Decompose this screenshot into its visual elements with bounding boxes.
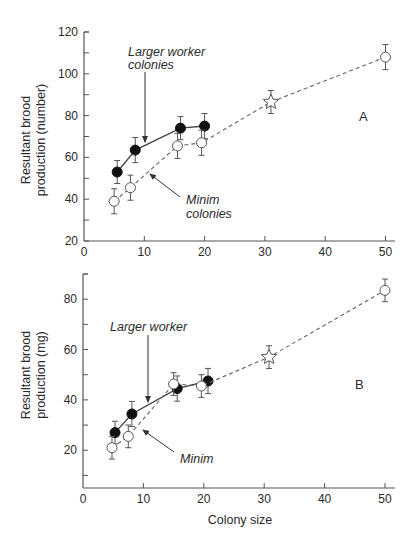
annotation-minim-a-line1: Minim: [186, 193, 219, 207]
filled-circle-marker: [175, 123, 185, 133]
y-tick-label: 20: [64, 443, 78, 457]
y-tick-label: 60: [64, 343, 78, 357]
arrow-minim-a: [150, 174, 180, 197]
filled-circle-marker: [200, 121, 210, 131]
x-tick-label: 20: [197, 492, 211, 506]
y-tick-label: 80: [64, 292, 78, 306]
x-tick-label: 10: [137, 492, 151, 506]
annotation-larger-worker-b: Larger worker: [110, 320, 188, 334]
chart-panel-a: 2040608010012001020304050: [58, 25, 395, 259]
chart-panel-b: 2040608001020304050: [64, 274, 395, 506]
y-tick-label: 120: [58, 25, 78, 39]
filled-circle-marker: [112, 167, 122, 177]
open-circle-marker: [123, 431, 133, 441]
y-axis-title-a-line2: production (number): [34, 84, 48, 197]
filled-circle-marker: [130, 145, 140, 155]
x-tick-label: 0: [80, 492, 87, 506]
series-line: [112, 290, 385, 447]
y-tick-label: 20: [65, 234, 79, 248]
series-minim: [107, 279, 390, 459]
y-tick-label: 80: [65, 109, 79, 123]
y-axis-title-b-line1: Resultant brood: [19, 331, 33, 419]
open-circle-marker: [109, 196, 119, 206]
x-tick-label: 10: [138, 245, 152, 259]
axes-a: 2040608010012001020304050: [58, 25, 395, 259]
y-tick-label: 100: [58, 67, 78, 81]
y-tick-label: 40: [64, 393, 78, 407]
y-axis-title-a-line1: Resultant brood: [19, 96, 33, 184]
x-tick-label: 20: [198, 245, 212, 259]
x-axis-title: Colony size: [208, 513, 273, 527]
open-circle-marker: [197, 138, 207, 148]
x-tick-label: 50: [378, 492, 392, 506]
figure: 2040608010012001020304050 20406080010203…: [0, 0, 416, 551]
y-tick-label: 60: [65, 150, 79, 164]
x-tick-label: 40: [319, 245, 333, 259]
open-circle-marker: [169, 379, 179, 389]
open-circle-marker: [125, 183, 135, 193]
x-tick-label: 0: [81, 245, 88, 259]
panel-label-b: B: [355, 377, 364, 392]
annotation-larger-worker-a-line2: colonies: [128, 58, 174, 72]
open-circle-marker: [380, 285, 390, 295]
panel-label-a: A: [359, 109, 368, 124]
series-line: [114, 57, 385, 201]
annotation-minim-a-line2: colonies: [186, 207, 232, 221]
y-tick-label: 40: [65, 192, 79, 206]
annotation-larger-worker-a-line1: Larger worker: [128, 45, 206, 59]
arrow-minim-b: [143, 430, 174, 452]
open-circle-marker: [381, 52, 391, 62]
x-tick-label: 50: [379, 245, 393, 259]
x-tick-label: 40: [318, 492, 332, 506]
filled-circle-marker: [127, 409, 137, 419]
annotation-minim-b: Minim: [180, 452, 213, 466]
x-tick-label: 30: [258, 492, 272, 506]
x-tick-label: 30: [258, 245, 272, 259]
y-axis-title-b-line2: production (mg): [34, 331, 48, 419]
open-circle-marker: [172, 141, 182, 151]
axes-b: 2040608001020304050: [64, 274, 395, 506]
open-circle-marker: [107, 443, 117, 453]
open-circle-marker: [196, 381, 206, 391]
series-larger-worker-colonies: [112, 114, 209, 184]
